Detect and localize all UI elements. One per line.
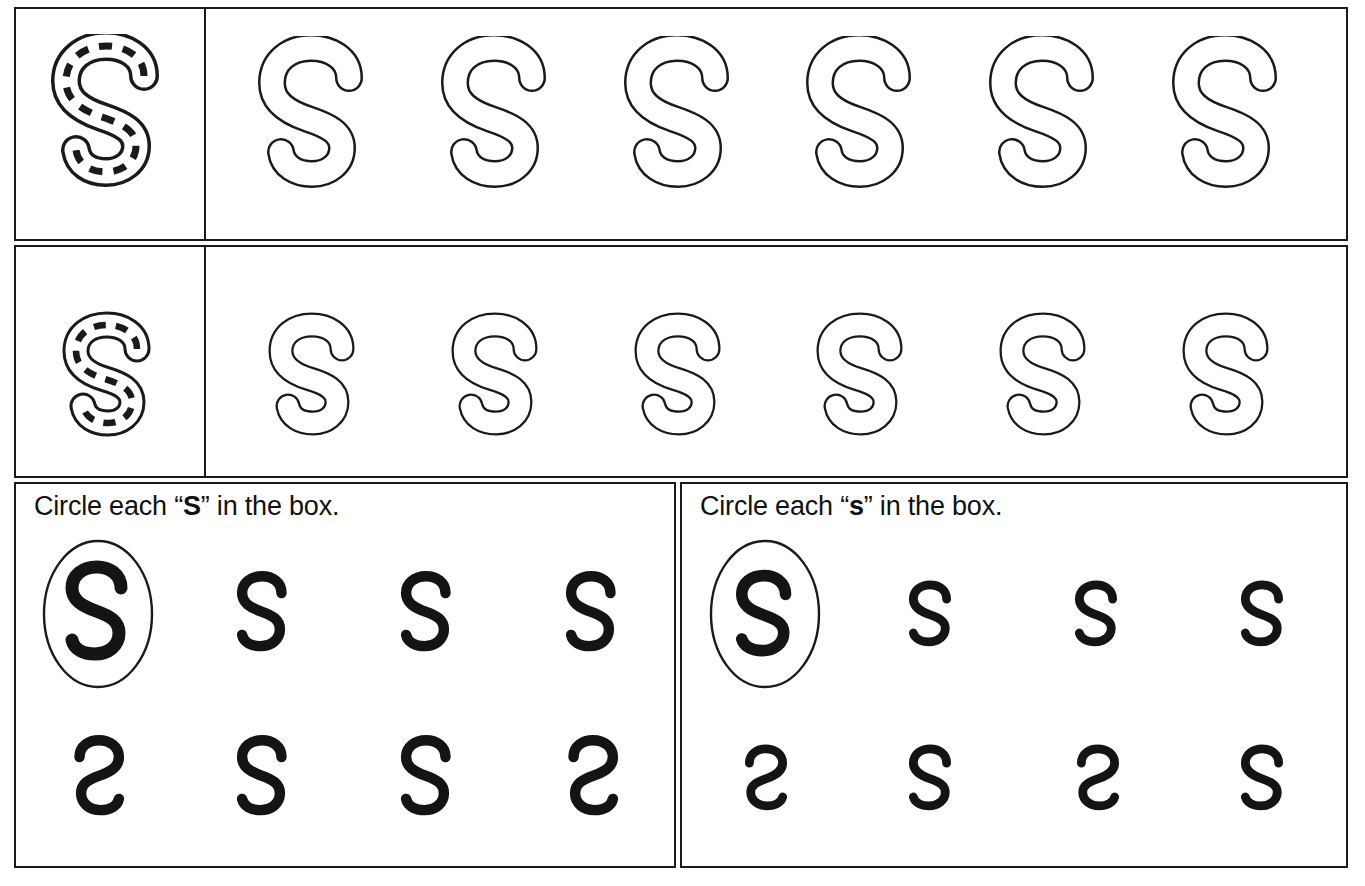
letter-cell[interactable]: [1014, 532, 1180, 696]
letter-glyph-s[interactable]: [902, 576, 960, 652]
letter-glyph-S[interactable]: [230, 569, 296, 659]
uppercase-trace-row: [14, 7, 1348, 241]
letter-cell[interactable]: [181, 696, 346, 860]
letter-cell[interactable]: [510, 532, 675, 696]
lowercase-prompt: Circle each “s” in the box.: [700, 492, 1002, 520]
uppercase-letter-row: [16, 696, 674, 860]
letter-cell[interactable]: [16, 696, 181, 860]
lowercase-letter-row: [682, 696, 1346, 860]
letter-glyph-s[interactable]: [727, 564, 803, 664]
letter-cell[interactable]: [345, 532, 510, 696]
letter-glyph-s[interactable]: [1234, 576, 1292, 652]
lowercase-find-exercise: Circle each “s” in the box.: [680, 482, 1348, 868]
letter-cell[interactable]: [682, 696, 848, 860]
letter-glyph-s-mirrored[interactable]: [1068, 740, 1126, 816]
uppercase-letter-grid: [16, 532, 674, 860]
letter-glyph-s-mirrored[interactable]: [736, 740, 794, 816]
letter-cell[interactable]: [848, 532, 1014, 696]
letter-glyph-s[interactable]: [902, 740, 960, 816]
trace-letter-lowercase[interactable]: [626, 309, 736, 445]
trace-letter-uppercase[interactable]: [615, 36, 747, 212]
letter-cell[interactable]: [510, 696, 675, 860]
prompt-target-letter: s: [849, 491, 864, 521]
trace-letter-lowercase[interactable]: [443, 309, 553, 445]
letter-glyph-S[interactable]: [394, 569, 460, 659]
trace-letter-lowercase[interactable]: [991, 309, 1101, 445]
letter-cell[interactable]: [1180, 532, 1346, 696]
letter-cell[interactable]: [1014, 696, 1180, 860]
letter-cell[interactable]: [682, 532, 848, 696]
uppercase-model-cell: [16, 9, 206, 239]
uppercase-prompt: Circle each “S” in the box.: [34, 492, 339, 520]
letter-glyph-s[interactable]: [1234, 740, 1292, 816]
trace-letter-uppercase[interactable]: [432, 36, 564, 212]
prompt-suffix: ” in the box.: [201, 491, 339, 521]
trace-letter-uppercase[interactable]: [249, 36, 381, 212]
prompt-prefix: Circle each “: [34, 491, 183, 521]
lowercase-trace-row: [14, 245, 1348, 478]
letter-glyph-S-mirrored[interactable]: [559, 733, 625, 823]
uppercase-find-exercise: Circle each “S” in the box.: [14, 482, 676, 868]
trace-letter-uppercase[interactable]: [797, 36, 929, 212]
trace-letter-uppercase[interactable]: [1163, 36, 1295, 212]
trace-letter-uppercase[interactable]: [980, 36, 1112, 212]
lowercase-model-cell: [16, 247, 206, 476]
uppercase-letter-row: [16, 532, 674, 696]
model-letter-lowercase: [54, 309, 166, 445]
trace-letter-lowercase[interactable]: [260, 309, 370, 445]
letter-glyph-S-mirrored[interactable]: [65, 733, 131, 823]
lowercase-practice-cell[interactable]: [206, 247, 1346, 476]
letter-glyph-S[interactable]: [559, 569, 625, 659]
prompt-target-letter: S: [183, 491, 201, 521]
letter-glyph-S[interactable]: [230, 733, 296, 823]
lowercase-letter-grid: [682, 532, 1346, 860]
prompt-prefix: Circle each “: [700, 491, 849, 521]
letter-cell[interactable]: [1180, 696, 1346, 860]
model-letter-uppercase: [40, 34, 180, 214]
letter-glyph-S[interactable]: [57, 558, 139, 670]
trace-letter-lowercase[interactable]: [1174, 309, 1284, 445]
worksheet-page: Circle each “S” in the box.: [0, 0, 1365, 886]
letter-cell[interactable]: [16, 532, 181, 696]
letter-glyph-s[interactable]: [1068, 576, 1126, 652]
uppercase-practice-cell[interactable]: [206, 9, 1346, 239]
letter-cell[interactable]: [345, 696, 510, 860]
trace-letter-lowercase[interactable]: [808, 309, 918, 445]
lowercase-letter-row: [682, 532, 1346, 696]
letter-glyph-S[interactable]: [394, 733, 460, 823]
prompt-suffix: ” in the box.: [864, 491, 1002, 521]
letter-cell[interactable]: [848, 696, 1014, 860]
letter-cell[interactable]: [181, 532, 346, 696]
